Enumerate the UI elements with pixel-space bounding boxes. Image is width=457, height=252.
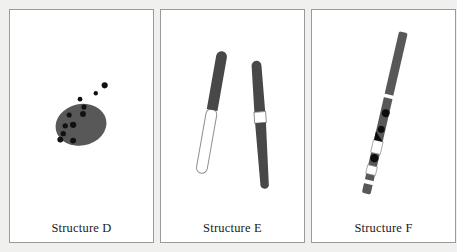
oval-body	[52, 99, 111, 150]
rod-left-top-segment	[207, 50, 228, 111]
structure-f-svg	[312, 10, 455, 214]
dot	[70, 138, 76, 144]
dot	[94, 91, 98, 95]
dot	[57, 137, 63, 143]
rod-right	[250, 60, 271, 189]
rod-gap	[371, 140, 383, 155]
rod-right-lower-segment	[255, 122, 270, 189]
rod-left	[196, 50, 228, 174]
structure-d-diagram	[10, 10, 153, 214]
rod-right-upper-segment	[251, 60, 265, 112]
dot	[80, 111, 86, 117]
figure-board: Structure D Structure E	[0, 0, 457, 252]
panel-structure-d[interactable]: Structure D	[9, 9, 154, 243]
dot	[81, 105, 86, 110]
structure-f-diagram	[312, 10, 455, 214]
panel-structure-f[interactable]: Structure F	[311, 9, 456, 243]
rod-gap	[366, 165, 378, 176]
rod-left-bottom-segment	[196, 108, 218, 174]
structure-e-svg	[161, 10, 304, 214]
structure-d-svg	[10, 10, 153, 214]
dot	[67, 112, 72, 117]
panel-caption-d: Structure D	[10, 220, 153, 236]
panel-caption-f: Structure F	[312, 220, 455, 236]
dot	[70, 122, 76, 128]
rod-right-band	[254, 112, 266, 124]
panel-structure-e[interactable]: Structure E	[160, 9, 305, 243]
dot	[63, 123, 68, 128]
structure-e-diagram	[161, 10, 304, 214]
banded-rod	[361, 31, 408, 195]
panel-caption-e: Structure E	[161, 220, 304, 236]
dot	[61, 131, 66, 136]
dot	[102, 82, 108, 88]
dot	[78, 97, 83, 102]
